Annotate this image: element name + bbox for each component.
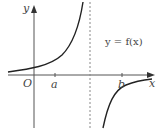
mark-a-label: a	[51, 78, 58, 91]
function-graph: y x O a b y = f(x)	[0, 0, 160, 132]
x-axis-label: x	[149, 77, 156, 90]
mark-b-label: b	[118, 78, 125, 91]
curve-left-branch	[8, 2, 83, 72]
curve-right-branch	[103, 79, 152, 128]
y-axis-label: y	[22, 2, 30, 15]
origin-label: O	[23, 77, 32, 90]
equation-label: y = f(x)	[104, 36, 143, 47]
y-axis-arrow-icon	[31, 5, 37, 13]
